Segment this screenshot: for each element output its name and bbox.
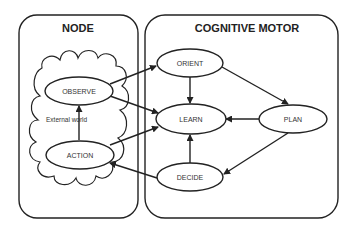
edge-observe-orient [110,66,156,84]
edge-decide-action [110,163,157,178]
node-action-label: ACTION [67,152,93,159]
node-panel-title: NODE [62,22,94,34]
edge-observe-learn [110,96,158,113]
node-plan: PLAN [259,105,327,133]
node-observe-label: OBSERVE [62,88,96,95]
ooda-diagram: NODE COGNITIVE MOTOR External world OBSE… [0,0,356,234]
node-observe: OBSERVE [45,77,113,105]
edge-action-learn [110,127,158,145]
node-orient-label: ORIENT [177,60,204,67]
node-learn: LEARN [156,104,226,134]
node-decide: DECIDE [157,163,223,191]
edge-orient-plan [222,67,288,104]
node-decide-label: DECIDE [177,174,204,181]
node-plan-label: PLAN [284,116,302,123]
node-action: ACTION [46,141,114,169]
node-learn-label: LEARN [179,116,202,123]
edge-plan-decide [224,133,288,174]
cognitive-motor-panel-title: COGNITIVE MOTOR [195,22,299,34]
node-orient: ORIENT [157,49,223,77]
external-world-label: External world [46,116,88,123]
